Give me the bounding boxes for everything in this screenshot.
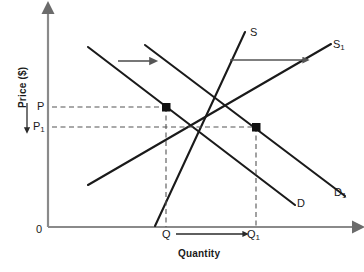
supply-shifted-subscript: 1: [340, 43, 344, 52]
supply-shifted-curve: [88, 44, 331, 185]
price-initial-label: P: [37, 101, 44, 112]
demand-shifted-subscript: 1: [342, 191, 346, 200]
equilibrium-points-group: [162, 103, 261, 132]
price-shifted-subscript: 1: [40, 125, 44, 134]
quantity-axis-title: Quantity: [178, 249, 220, 259]
supply-demand-diagram: Price ($) Quantity 0 P P1 Q Q1 S S1 D D1: [0, 0, 364, 272]
shift-arrows-group: [27, 60, 303, 234]
demand-shifted-label: D1: [334, 187, 346, 198]
price-axis-title: Price ($): [18, 67, 28, 108]
supply-initial-curve: [155, 32, 245, 226]
quantity-shifted-label: Q1: [247, 229, 260, 240]
supply-shifted-label: S1: [333, 39, 345, 50]
demand-curves-group: [88, 45, 345, 205]
origin-label: 0: [36, 224, 42, 235]
diagram-canvas: [0, 0, 364, 272]
quantity-shifted-subscript: 1: [256, 233, 260, 242]
equilibrium-shifted-marker: [252, 123, 261, 132]
demand-initial-label: D: [297, 198, 305, 209]
price-shifted-label: P1: [33, 121, 45, 132]
quantity-initial-label: Q: [162, 229, 171, 240]
quantity-shifted-letter: Q: [247, 228, 256, 240]
supply-initial-label: S: [250, 27, 257, 38]
demand-shifted-curve: [145, 45, 345, 196]
equilibrium-initial-marker: [162, 103, 171, 112]
guide-lines-group: [52, 107, 256, 227]
demand-shifted-letter: D: [334, 186, 342, 198]
